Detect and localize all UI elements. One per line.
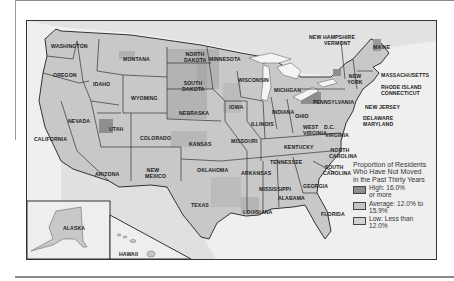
legend-title: Proportion of Residents Who Have Not Mov… (353, 161, 435, 183)
state-label-wyoming: WYOMING (131, 95, 158, 101)
state-label-ohio: OHIO (295, 113, 309, 119)
state-label-new-mexico: NEW MEXICO (145, 167, 161, 179)
state-label-texas: TEXAS (191, 202, 209, 208)
state-label-michigan: MICHIGAN (274, 87, 301, 93)
top-rule (15, 0, 454, 1)
state-label-missouri: MISSOURI (231, 138, 257, 144)
callout-connecticut: CONNECTICUT (381, 90, 420, 96)
state-label-florida: FLORIDA (321, 211, 345, 217)
callout-new-jersey: NEW JERSEY (365, 104, 400, 110)
state-label-georgia: GEORGIA (303, 183, 328, 189)
state-label-idaho: IDAHO (93, 81, 110, 87)
state-label-north-carolina: NORTH CAROLINA (329, 147, 351, 159)
state-label-virginia: VIRGINIA (325, 132, 349, 138)
state-label-minnesota: MINNESOTA (209, 56, 241, 62)
state-label-mississippi: MISSISSIPPI (259, 186, 291, 192)
state-label-illinois: ILLINOIS (251, 121, 274, 127)
state-label-iowa: IOWA (229, 104, 243, 110)
state-label-hawaii: HAWAII (119, 251, 138, 257)
state-label-colorado: COLORADO (140, 135, 171, 141)
state-label-alaska: ALASKA (63, 225, 85, 231)
state-label-west-virginia: WEST VIRGINIA (303, 124, 317, 136)
legend-item-low: Low: Less than 12.0% (353, 216, 435, 230)
state-label-arkansas: ARKANSAS (241, 170, 271, 176)
legend-title-line-1: Proportion of Residents (353, 161, 435, 168)
state-label-alabama: ALABAMA (278, 195, 305, 201)
state-label-north-dakota: NORTH DAKOTA (184, 51, 206, 63)
state-label-nevada: NEVADA (68, 118, 90, 124)
state-label-wisconsin: WISCONSIN (238, 77, 269, 83)
state-label-oregon: OREGON (53, 72, 77, 78)
state-label-tennessee: TENNESSEE (270, 159, 302, 165)
callout-maine: MAINE (373, 44, 390, 50)
state-label-kansas: KANSAS (189, 141, 212, 147)
state-label-washington: WASHINGTON (51, 43, 88, 49)
state-label-nebraska: NEBRASKA (179, 110, 209, 116)
legend-swatch-low (353, 217, 366, 225)
legend-title-line-2: Who Have Not Moved (353, 168, 435, 175)
legend-label-average-cont: 15.9% (369, 208, 423, 215)
state-label-louisiana: LOUISIANA (243, 209, 272, 215)
callout-massachusetts: MASSACHUSETTS (381, 72, 429, 78)
state-label-california: CALIFORNIA (34, 136, 67, 142)
legend-item-average: Average: 12.0% to 15.9% (353, 201, 435, 215)
state-label-new-york: NEW YORK (347, 73, 363, 85)
state-label-south-carolina: SOUTH CAROLINA (323, 164, 345, 176)
legend-swatch-average (353, 202, 366, 210)
state-label-pennsylvania: PENNSYLVANIA (313, 99, 354, 105)
legend-item-high: High: 16.0% or more (353, 185, 435, 199)
state-label-montana: MONTANA (123, 56, 150, 62)
state-label-south-dakota: SOUTH DAKOTA (182, 80, 204, 92)
map-legend: Proportion of Residents Who Have Not Mov… (353, 161, 435, 230)
left-rule (15, 0, 16, 140)
legend-label-low-cont: 12.0% (369, 223, 413, 230)
callout-vermont: VERMONT (324, 40, 351, 46)
legend-title-line-3: in the Past Thirty Years (353, 176, 435, 183)
state-label-indiana: INDIANA (272, 109, 294, 115)
legend-label-high-cont: or more (369, 192, 405, 199)
legend-swatch-high (353, 186, 366, 194)
callout-maryland: MARYLAND (363, 121, 393, 127)
bottom-rule (15, 276, 454, 278)
state-label-kentucky: KENTUCKY (284, 144, 314, 150)
state-label-oklahoma: OKLAHOMA (197, 167, 228, 173)
state-label-arizona: ARIZONA (95, 171, 119, 177)
state-label-dc: D.C. (324, 124, 335, 130)
state-label-utah: UTAH (109, 126, 123, 132)
